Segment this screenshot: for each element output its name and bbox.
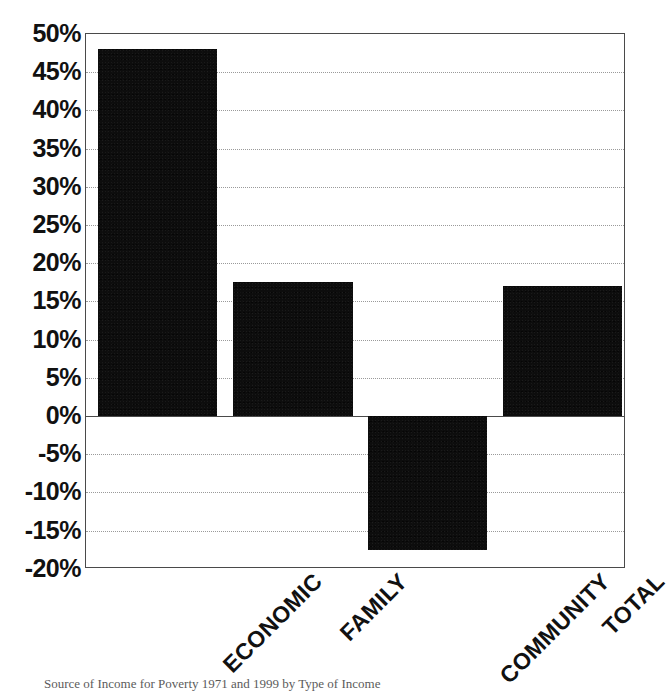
y-tick-label: 5%	[3, 363, 81, 392]
y-tick-label: 50%	[3, 19, 81, 48]
gridline-neg10	[86, 492, 624, 493]
y-tick-label: -5%	[3, 439, 81, 468]
y-tick-label: -15%	[3, 516, 81, 545]
y-tick-label: 15%	[3, 286, 81, 315]
x-axis-labels: ECONOMIC FAMILY COMMUNITY TOTAL	[0, 568, 651, 678]
caption-remnant: Source of Income for Poverty 1971 and 19…	[0, 679, 651, 695]
bar-family	[233, 282, 353, 416]
y-tick-label: 35%	[3, 134, 81, 163]
gridline-zero	[86, 416, 624, 417]
bar-community	[368, 416, 487, 550]
y-tick-label: 0%	[3, 401, 81, 430]
gridline-neg5	[86, 454, 624, 455]
x-tick-label-community: COMMUNITY	[494, 568, 615, 689]
caption-text: Source of Income for Poverty 1971 and 19…	[44, 679, 380, 692]
y-tick-label: 45%	[3, 57, 81, 86]
gridline-neg15	[86, 531, 624, 532]
y-tick-label: 20%	[3, 248, 81, 277]
y-tick-label: -10%	[3, 477, 81, 506]
x-tick-label-economic: ECONOMIC	[218, 568, 328, 678]
bar-total	[503, 286, 622, 416]
y-tick-label: 10%	[3, 325, 81, 354]
x-tick-label-family: FAMILY	[335, 568, 414, 647]
bar-economic	[98, 49, 217, 416]
y-tick-label: 25%	[3, 210, 81, 239]
plot-area	[85, 33, 625, 568]
y-tick-label: 30%	[3, 172, 81, 201]
y-tick-label: 40%	[3, 95, 81, 124]
